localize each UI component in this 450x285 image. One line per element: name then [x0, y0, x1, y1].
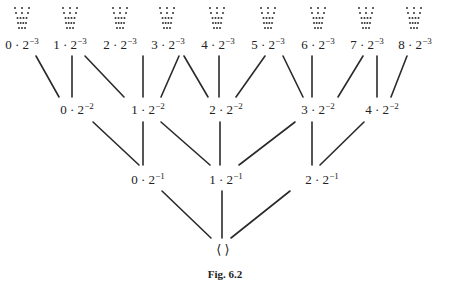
node-level2: 1 · 2−2: [131, 102, 164, 116]
edge: [184, 56, 208, 97]
node-level1: 1 · 2−1: [209, 172, 242, 186]
node-level3: 6 · 2−3: [301, 37, 334, 51]
root-node: ⟨ ⟩: [216, 242, 229, 258]
node-level3: 0 · 2−3: [5, 37, 38, 51]
edge: [161, 56, 179, 97]
edge: [391, 56, 407, 97]
edge: [162, 191, 211, 238]
node-level3: 8 · 2−3: [398, 37, 431, 51]
edge: [236, 56, 265, 97]
node-level3: 3 · 2−3: [151, 37, 184, 51]
edge: [239, 122, 295, 165]
node-level3: 4 · 2−3: [201, 37, 234, 51]
figure-caption: Fig. 6.2: [208, 268, 243, 280]
node-level3: 1 · 2−3: [53, 37, 86, 51]
edge: [93, 122, 139, 165]
edge: [36, 56, 59, 97]
continuation-dots: [14, 7, 422, 29]
node-level2: 3 · 2−2: [301, 102, 334, 116]
node-level3: 5 · 2−3: [251, 37, 284, 51]
edge: [283, 56, 303, 97]
node-level3: 2 · 2−3: [103, 37, 136, 51]
node-level2: 2 · 2−2: [209, 102, 242, 116]
node-level2: 0 · 2−2: [60, 102, 93, 116]
node-level1: 2 · 2−1: [305, 172, 338, 186]
node-level2: 4 · 2−2: [365, 102, 398, 116]
edge: [231, 191, 290, 238]
node-level1: 0 · 2−1: [131, 172, 164, 186]
edge: [320, 122, 364, 165]
node-level3: 7 · 2−3: [350, 37, 383, 51]
edge: [161, 122, 210, 165]
edge: [338, 56, 363, 97]
edge: [85, 56, 124, 97]
